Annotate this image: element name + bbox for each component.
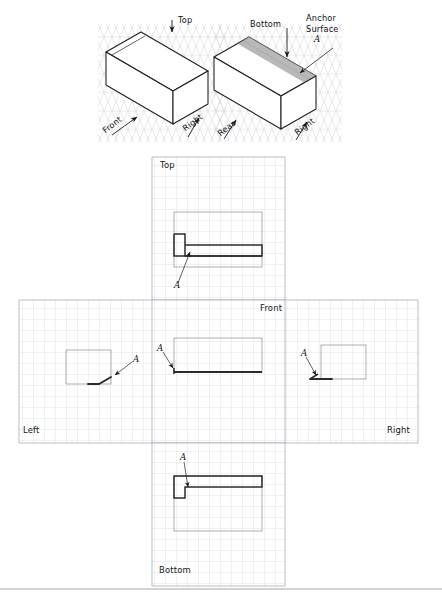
net-annotation-a-bottom: A bbox=[180, 453, 186, 463]
net-annotation-a-right: A bbox=[301, 349, 307, 359]
net-label-bottom: Bottom bbox=[159, 566, 191, 575]
net-annotation-a-front: A bbox=[157, 344, 163, 354]
net-label-right: Right bbox=[387, 426, 410, 435]
net-annotation-a-top: A bbox=[174, 281, 180, 291]
net-label-top: Top bbox=[160, 161, 175, 170]
orthographic-net-layer bbox=[0, 0, 442, 596]
net-label-left: Left bbox=[23, 426, 40, 435]
net-label-front: Front bbox=[260, 304, 282, 313]
drawing-sheet: Top Front Right Bottom Anchor Surface A … bbox=[0, 0, 442, 596]
net-annotation-a-left: A bbox=[133, 355, 139, 365]
net-panel-top bbox=[152, 157, 285, 300]
